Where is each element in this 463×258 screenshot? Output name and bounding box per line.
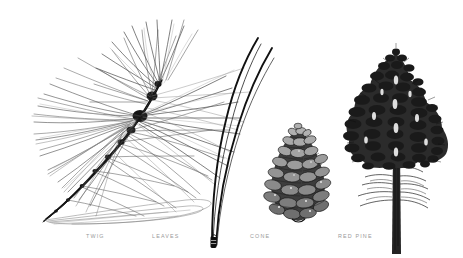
caption-cone: CONE (250, 232, 270, 240)
plate-artwork (0, 0, 463, 258)
caption-leaves: LEAVES (152, 232, 179, 240)
botanical-plate: TWIG LEAVES CONE RED PINE (0, 0, 463, 258)
caption-red-pine: RED PINE (338, 232, 373, 240)
caption-twig: TWIG (86, 232, 105, 240)
